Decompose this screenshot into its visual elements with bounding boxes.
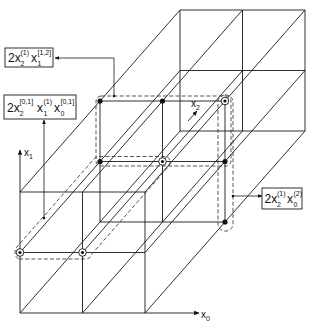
label-lead: 2x: [8, 51, 21, 65]
superscript: [0,1]: [20, 98, 34, 106]
label-var: x: [54, 101, 60, 115]
label-box-right: 2x 2 (1) x 0 (2): [262, 188, 302, 209]
filled-point: [97, 98, 102, 103]
superscript: (1): [277, 190, 286, 198]
superscript: (1): [44, 98, 53, 106]
subscript: 0: [294, 201, 298, 208]
axis-x2-label: x2: [191, 98, 200, 111]
axis-x1-label: x1: [24, 147, 33, 160]
leader-anchor-dot: [113, 95, 116, 98]
label-box-middle-left: 2x 2 [0,1] x 1 (1) x 0 [0,1]: [4, 95, 76, 119]
label-var: x: [31, 51, 37, 65]
subscript: 2: [20, 110, 24, 117]
filled-point: [97, 159, 102, 164]
circled-point: [159, 158, 167, 166]
lattice-diagram: x1 x0 x2: [0, 0, 311, 324]
subscript: 2: [21, 60, 25, 67]
lattice-points: [16, 97, 229, 256]
circled-point: [79, 249, 87, 257]
subscript: 0: [61, 110, 65, 117]
label-lead: 2x: [7, 101, 20, 115]
superscript: (1): [21, 49, 30, 57]
axis-x0: x0: [145, 309, 210, 322]
filled-point: [160, 98, 165, 103]
leader-top-left: [55, 58, 114, 96]
superscript: (2): [294, 190, 303, 198]
leader-anchor-dot: [232, 195, 235, 198]
label-var: x: [37, 101, 43, 115]
filled-point: [222, 159, 227, 164]
subscript: 1: [44, 110, 48, 117]
filled-point: [222, 219, 227, 224]
subscript: 2: [277, 201, 281, 208]
x2-arrow-icon: [188, 111, 197, 121]
label-var: x: [287, 192, 293, 206]
circled-point: [221, 97, 229, 105]
superscript: [0,1]: [61, 98, 75, 106]
label-box-top-left: 2x 2 (1) x 1 [1,2]: [5, 48, 53, 67]
leader-anchor-dot: [43, 217, 46, 220]
subscript: 1: [38, 60, 42, 67]
axis-x0-label: x0: [201, 309, 210, 322]
dashed-groupings: [15, 95, 233, 259]
label-lead: 2x: [265, 192, 278, 206]
circled-point: [16, 249, 24, 257]
leader-lines: [43, 58, 262, 219]
superscript: [1,2]: [38, 49, 52, 57]
